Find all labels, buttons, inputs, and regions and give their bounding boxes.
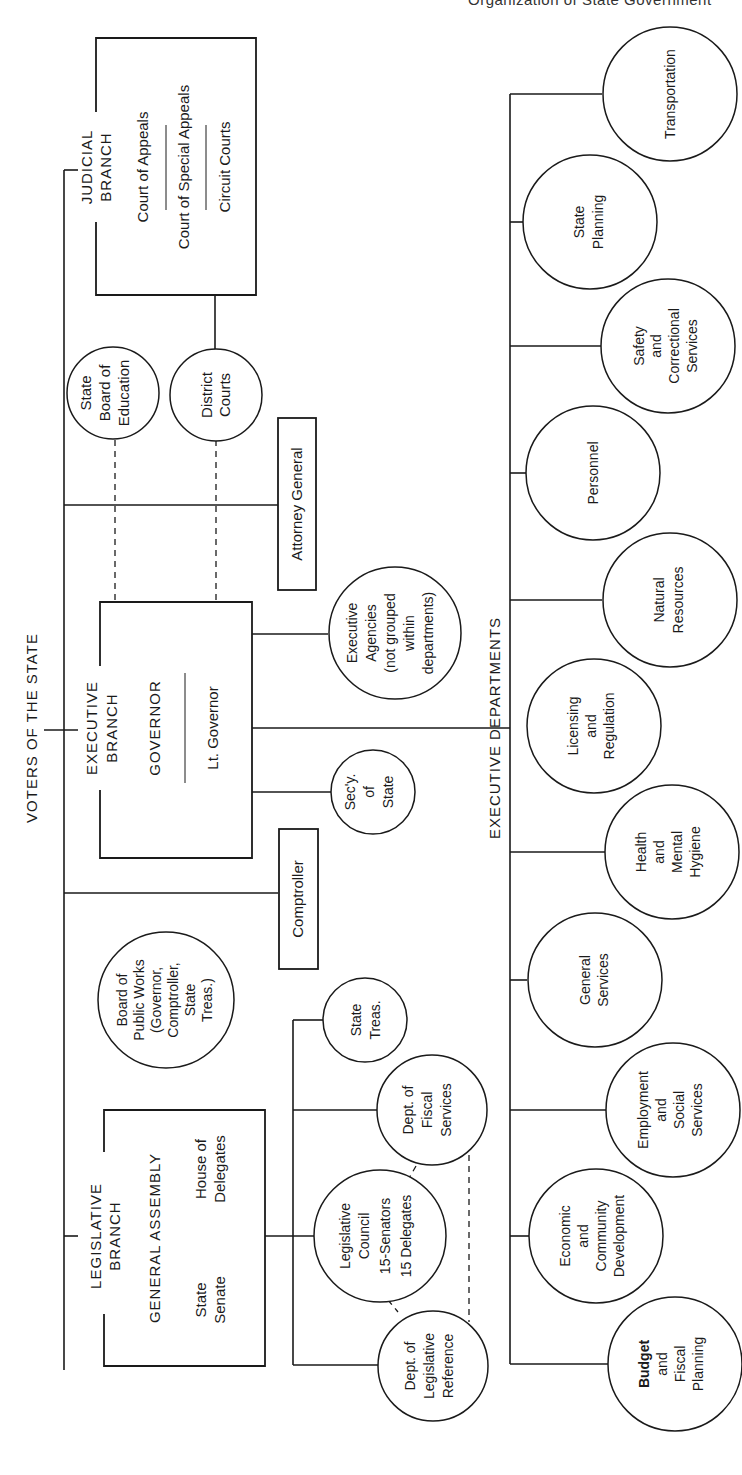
dept-general-services: General Services (528, 913, 662, 1047)
dept-employ-line3: Social (671, 1091, 687, 1129)
dept-economic-community-development: Economic and Community Development (529, 1169, 663, 1303)
legislative-title-line2: BRANCH (106, 1201, 123, 1270)
exec-agencies-line5: departments) (420, 592, 436, 674)
secy-line1: Sec'y. (342, 774, 358, 811)
legislative-branch-box: LEGISLATIVE BRANCH GENERAL ASSEMBLY Stat… (87, 1110, 265, 1366)
dept-legislative-reference-node: Dept. of Legislative Reference (378, 1311, 488, 1421)
fiscal-line1: Dept. of (400, 1085, 416, 1134)
dept-budget-line1: Budget (636, 1340, 652, 1389)
circuit-courts: Circuit Courts (216, 122, 233, 213)
bpw-line1: Board of (114, 973, 130, 1026)
sboe-line3: Education (115, 360, 132, 427)
dept-employ-line1: Employment (635, 1071, 651, 1149)
dept-licensing-line1: Licensing (565, 696, 581, 755)
bpw-line2: Public Works (131, 959, 147, 1040)
court-of-special-appeals: Court of Special Appeals (175, 85, 192, 249)
house-line1: House of (192, 1138, 209, 1199)
council-line4: 15 Delegates (398, 1195, 414, 1278)
executive-departments-label: EXECUTIVE DEPARTMENTS (486, 617, 503, 839)
dept-budget-line2: and (654, 1352, 670, 1375)
executive-agencies-node: Executive Agencies (not grouped within d… (329, 567, 461, 699)
dept-state-planning: State Planning (523, 155, 657, 289)
dept-transportation-line1: Transportation (662, 49, 678, 139)
state-senate-line2: Senate (211, 1276, 228, 1324)
district-courts-line1: District (198, 371, 215, 418)
dept-state-planning-line1: State (571, 205, 587, 238)
state-board-of-education-node: State Board of Education (67, 347, 159, 439)
dept-econ-line4: Development (611, 1195, 627, 1278)
treas-line2: Treas. (367, 1000, 383, 1039)
dept-safety-line2: and (648, 334, 664, 357)
dept-health-line4: Hygiene (687, 826, 703, 878)
treas-line1: State (348, 1003, 364, 1036)
dept-personnel: Personnel (526, 406, 660, 540)
attorney-general-label: Attorney General (288, 447, 305, 560)
exec-agencies-line4: within (401, 615, 417, 652)
secy-line2: of (361, 786, 377, 798)
dept-health-line2: and (651, 840, 667, 863)
dept-econ-line3: Community (593, 1201, 609, 1272)
dept-safety-line3: Correctional (666, 308, 682, 383)
dept-employment-social-services: Employment and Social Services (606, 1043, 740, 1177)
legref-line2: Legislative (421, 1333, 437, 1399)
legref-line1: Dept. of (402, 1341, 418, 1390)
dept-natres-line1: Natural (651, 577, 667, 622)
bpw-line6: Treas.) (199, 978, 215, 1022)
exec-agencies-line3: (not grouped (382, 593, 398, 672)
dept-health-line3: Mental (669, 831, 685, 873)
fiscal-line2: Fiscal (419, 1092, 435, 1129)
state-treasurer-node: State Treas. (323, 978, 407, 1062)
governor-label: GOVERNOR (146, 680, 163, 776)
dept-state-planning-line2: Planning (590, 195, 606, 250)
exec-agencies-line2: Agencies (363, 604, 379, 662)
sboe-line1: State (77, 375, 94, 410)
dept-health-line1: Health (633, 832, 649, 872)
judicial-branch-box: JUDICIAL BRANCH Court of Appeals Court o… (78, 38, 256, 295)
dept-gensvc-line2: Services (595, 953, 611, 1007)
dept-econ-line2: and (575, 1224, 591, 1247)
dept-budget-line4: Planning (690, 1337, 706, 1392)
dept-transportation: Transportation (603, 27, 737, 161)
board-of-public-works-node: Board of Public Works (Governor, Comptro… (98, 932, 234, 1068)
fiscal-line3: Services (438, 1083, 454, 1137)
comptroller-box: Comptroller (279, 829, 318, 969)
dept-safety-correctional: Safety and Correctional Services (601, 279, 735, 413)
district-courts-line2: Courts (216, 373, 233, 417)
council-line2: Council (356, 1213, 372, 1260)
legref-line3: Reference (440, 1333, 456, 1398)
court-of-appeals: Court of Appeals (134, 112, 151, 223)
dept-licensing-line3: Regulation (601, 693, 617, 760)
exec-agencies-line1: Executive (344, 602, 360, 663)
council-line3: 15-Senators (377, 1198, 393, 1274)
judicial-title-line1: JUDICIAL (78, 130, 95, 205)
dept-fiscal-services-node: Dept. of Fiscal Services (377, 1055, 487, 1165)
dept-econ-line1: Economic (557, 1205, 573, 1266)
district-courts-node: District Courts (170, 349, 262, 441)
bpw-line4: Comptroller, (165, 962, 181, 1037)
executive-branch-box: EXECUTIVE BRANCH GOVERNOR Lt. Governor (83, 602, 252, 858)
org-chart: VOTERS OF THE STATE JUDICIAL BRANCH Cour… (0, 0, 742, 1475)
judicial-title-line2: BRANCH (97, 132, 114, 201)
lt-governor-label: Lt. Governor (204, 686, 221, 769)
executive-title-line1: EXECUTIVE (83, 681, 100, 775)
bpw-line3: (Governor, (148, 967, 164, 1033)
executive-title-line2: BRANCH (103, 693, 120, 762)
state-senate-line1: State (192, 1282, 209, 1317)
sboe-line2: Board of (96, 364, 113, 422)
dept-natural-resources: Natural Resources (603, 533, 737, 667)
dept-licensing-line2: and (583, 714, 599, 737)
house-line2: Delegates (211, 1135, 228, 1203)
dept-personnel-line1: Personnel (585, 441, 601, 504)
general-assembly-label: GENERAL ASSEMBLY (146, 1153, 163, 1323)
dept-employ-line2: and (653, 1098, 669, 1121)
dept-safety-line4: Services (684, 319, 700, 373)
dept-natres-line2: Resources (670, 567, 686, 634)
legislative-council-node: Legislative Council 15-Senators 15 Deleg… (314, 1170, 446, 1302)
legislative-title-line1: LEGISLATIVE (87, 1183, 104, 1289)
dept-health-mental-hygiene: Health and Mental Hygiene (605, 785, 739, 919)
dept-licensing-regulation: Licensing and Regulation (527, 659, 661, 793)
dept-gensvc-line1: General (577, 955, 593, 1005)
dept-safety-line1: Safety (631, 326, 647, 366)
dept-budget-line3: Fiscal (672, 1346, 688, 1383)
secy-line3: State (380, 775, 396, 808)
